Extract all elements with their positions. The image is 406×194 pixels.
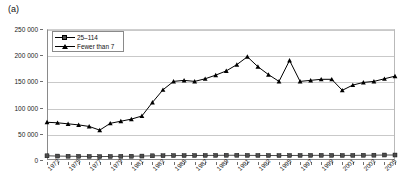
y-tick-label: 0 bbox=[34, 157, 38, 164]
legend-label-1: Fewer than 7 bbox=[75, 43, 114, 50]
data-point bbox=[108, 154, 112, 158]
series-line bbox=[47, 57, 395, 130]
legend: 25–114 Fewer than 7 bbox=[52, 31, 124, 52]
legend-marker-triangle-icon bbox=[55, 42, 75, 51]
data-point bbox=[98, 155, 102, 159]
data-point bbox=[140, 154, 144, 158]
data-point bbox=[224, 153, 228, 157]
data-point bbox=[245, 54, 250, 58]
legend-label-0: 25–114 bbox=[75, 34, 98, 41]
y-tick bbox=[40, 55, 43, 56]
data-point bbox=[87, 154, 91, 158]
data-point bbox=[172, 154, 176, 158]
data-point bbox=[193, 153, 197, 157]
data-point bbox=[203, 153, 207, 157]
x-axis: 1973197519771979198119831985198719891991… bbox=[47, 162, 395, 194]
y-tick-label: 150 000 bbox=[15, 78, 39, 85]
data-point bbox=[150, 154, 154, 158]
data-point bbox=[372, 153, 376, 157]
data-point bbox=[287, 58, 292, 62]
y-tick bbox=[40, 134, 43, 135]
data-point bbox=[288, 153, 292, 157]
data-point bbox=[319, 153, 323, 157]
y-tick-label: 50 000 bbox=[18, 130, 38, 137]
y-axis: 050 000100 000150 000200 000250 000 bbox=[0, 24, 45, 164]
data-point bbox=[129, 154, 133, 158]
series-0 bbox=[45, 153, 397, 159]
data-point bbox=[256, 153, 260, 157]
legend-marker-square-icon bbox=[55, 33, 75, 42]
data-point bbox=[182, 154, 186, 158]
data-point bbox=[56, 154, 60, 158]
legend-item-1: Fewer than 7 bbox=[55, 42, 121, 51]
y-tick-label: 200 000 bbox=[15, 52, 39, 59]
data-point bbox=[77, 154, 81, 158]
y-tick bbox=[40, 108, 43, 109]
data-point bbox=[66, 154, 70, 158]
y-tick bbox=[40, 81, 43, 82]
data-point bbox=[119, 154, 123, 158]
data-point bbox=[214, 153, 218, 157]
data-point bbox=[309, 153, 313, 157]
data-point bbox=[330, 153, 334, 157]
data-point bbox=[382, 153, 386, 157]
data-point bbox=[298, 153, 302, 157]
y-tick-label: 250 000 bbox=[15, 26, 39, 33]
data-point bbox=[361, 153, 365, 157]
data-point bbox=[277, 154, 281, 158]
y-tick-label: 100 000 bbox=[15, 104, 39, 111]
data-point bbox=[45, 154, 49, 158]
chart-figure: (a) 050 000100 000150 000200 000250 000 … bbox=[0, 0, 406, 194]
data-point bbox=[245, 153, 249, 157]
data-point bbox=[351, 153, 355, 157]
legend-item-0: 25–114 bbox=[55, 33, 121, 42]
data-point bbox=[235, 153, 239, 157]
data-point bbox=[224, 69, 229, 73]
panel-label: (a) bbox=[8, 4, 19, 14]
data-point bbox=[340, 153, 344, 157]
data-point bbox=[266, 153, 270, 157]
series-1 bbox=[45, 54, 398, 132]
data-point bbox=[161, 154, 165, 158]
data-point bbox=[393, 153, 397, 157]
y-tick bbox=[40, 160, 43, 161]
data-point bbox=[393, 74, 398, 78]
y-tick bbox=[40, 29, 43, 30]
data-point bbox=[277, 79, 282, 83]
